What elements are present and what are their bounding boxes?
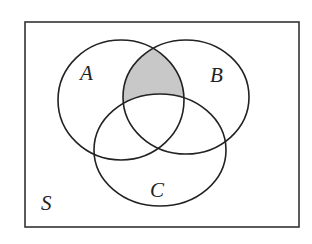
set-b-label: B xyxy=(210,63,223,87)
set-a-label: A xyxy=(78,61,93,85)
set-c-label: C xyxy=(150,178,165,202)
venn-diagram: A B C S xyxy=(0,0,312,244)
universe-label: S xyxy=(41,191,52,215)
